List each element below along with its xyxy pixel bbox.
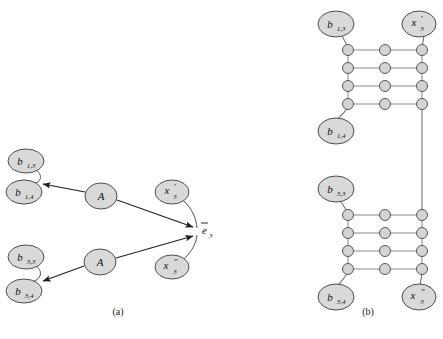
node-A-lower: A — [84, 249, 116, 275]
node-b33-b-sub: 3,3 — [336, 190, 346, 198]
node-x3doubleprime-b-label: x — [410, 289, 416, 301]
node-x3doubleprime-mark: ″ — [174, 257, 178, 267]
node-b34-sub: 3,4 — [24, 292, 34, 300]
arrow-A-lower-to-b34 — [43, 266, 84, 281]
ladder-vertex — [380, 63, 391, 74]
node-b14-b-label: b — [327, 125, 333, 137]
node-b33-b: b 3,3 — [318, 176, 354, 202]
ladder-vertex — [343, 246, 354, 257]
node-x3prime-b-mark: ′ — [421, 14, 423, 24]
node-b14-sub: 1,4 — [25, 193, 34, 201]
node-b33-label: b — [17, 251, 23, 263]
node-x3prime-b-sub: 3 — [419, 25, 424, 33]
node-x3doubleprime: x ″ 3 — [155, 255, 189, 279]
ladder-bottom-edges — [348, 215, 422, 269]
ladder-top-vertices — [343, 45, 428, 110]
ladder-vertex — [417, 99, 428, 110]
ladder-vertex — [343, 228, 354, 239]
node-b14-b: b 1,4 — [318, 118, 354, 144]
ladder-vertex — [343, 99, 354, 110]
node-b34-b-label: b — [327, 291, 333, 303]
arrow-A-upper-to-e3 — [117, 200, 193, 227]
ladder-vertex — [417, 63, 428, 74]
node-A-upper: A — [85, 183, 117, 209]
node-A-upper-label: A — [97, 190, 105, 202]
ladder-vertex — [380, 264, 391, 275]
brace-b13-b14 — [34, 170, 40, 184]
ladder-vertex — [380, 228, 391, 239]
label-e3-bar-sub: 3 — [208, 232, 213, 240]
caption-panel-a: (a) — [100, 306, 136, 317]
ladder-vertex — [343, 210, 354, 221]
panel-b: b 1,3 x ′ 3 b 1,4 b 3,3 — [318, 11, 436, 310]
arrow-A-lower-to-e3 — [116, 236, 193, 258]
ladder-vertex — [380, 210, 391, 221]
node-b13-b-sub: 1,3 — [337, 25, 346, 33]
node-b14-b-sub: 1,4 — [337, 132, 346, 140]
ladder-vertex — [417, 45, 428, 56]
node-b33-b-label: b — [327, 183, 333, 195]
ladder-vertex — [417, 81, 428, 92]
node-x3prime-mark: ′ — [174, 182, 176, 192]
node-b13-b: b 1,3 — [318, 11, 354, 37]
node-b14-label: b — [15, 186, 21, 198]
node-b33-sub: 3,3 — [26, 258, 36, 266]
figure-svg: b 1,3 b 1,4 b 3,3 b 3,4 — [0, 0, 443, 339]
node-b13-b-label: b — [327, 18, 333, 30]
ladder-vertex — [343, 63, 354, 74]
label-e3-bar-base: e — [202, 224, 207, 236]
node-b14: b 1,4 — [6, 180, 42, 204]
node-x3doubleprime-label: x — [163, 259, 169, 271]
ladder-vertex — [380, 45, 391, 56]
caption-panel-b: (b) — [350, 306, 386, 317]
node-b13: b 1,3 — [8, 149, 44, 173]
ladder-vertex — [380, 246, 391, 257]
node-x3prime-label: x — [164, 184, 170, 196]
figure-container: b 1,3 b 1,4 b 3,3 b 3,4 — [0, 0, 443, 339]
node-b13-sub: 1,3 — [27, 162, 36, 170]
label-e3-bar: e 3 — [201, 223, 213, 240]
node-x3prime-sub: 3 — [172, 193, 177, 201]
ladder-vertex — [417, 246, 428, 257]
node-A-lower-label: A — [96, 256, 104, 268]
node-b33: b 3,3 — [8, 245, 44, 269]
node-x3prime-b: x ′ 3 — [402, 11, 436, 37]
ladder-vertex — [380, 99, 391, 110]
node-b34-b-sub: 3,4 — [336, 298, 346, 306]
arrow-A-upper-to-b14 — [43, 184, 85, 192]
node-x3doubleprime-sub: 3 — [172, 268, 177, 276]
node-b34-b: b 3,4 — [318, 284, 354, 310]
ladder-bottom-vertices — [343, 210, 428, 275]
brace-b33-b34 — [34, 266, 40, 281]
ladder-vertex — [417, 228, 428, 239]
ladder-vertex — [380, 81, 391, 92]
panel-a: b 1,3 b 1,4 b 3,3 b 3,4 — [6, 149, 213, 303]
node-x3doubleprime-b-sub: 3 — [419, 298, 424, 306]
ladder-vertex — [417, 264, 428, 275]
node-b34: b 3,4 — [6, 279, 42, 303]
node-x3prime-b-label: x — [411, 16, 417, 28]
node-x3doubleprime-b-mark: ″ — [421, 287, 425, 297]
node-b13-label: b — [17, 155, 23, 167]
ladder-top-edges — [348, 50, 422, 104]
node-x3doubleprime-b: x ″ 3 — [402, 284, 436, 310]
node-x3prime: x ′ 3 — [155, 180, 189, 204]
ladder-vertex — [343, 45, 354, 56]
ladder-vertex — [343, 264, 354, 275]
ladder-vertex — [417, 210, 428, 221]
ladder-vertex — [343, 81, 354, 92]
node-b34-label: b — [15, 285, 21, 297]
brace-x3dprime-e3 — [184, 235, 197, 259]
